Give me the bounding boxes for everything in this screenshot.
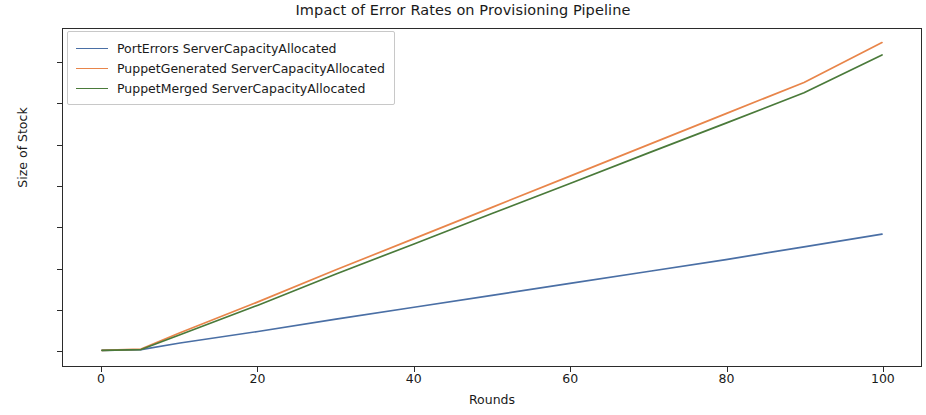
x-tick-label: 40	[384, 373, 444, 386]
legend-color-swatch	[76, 68, 108, 69]
chart-legend: PortErrors ServerCapacityAllocatedPuppet…	[67, 31, 395, 105]
chart-figure: Impact of Error Rates on Provisioning Pi…	[0, 0, 926, 415]
legend-item-label: PortErrors ServerCapacityAllocated	[117, 41, 337, 56]
x-tick-label: 100	[853, 373, 913, 386]
legend-color-swatch	[76, 88, 108, 89]
x-axis-label: Rounds	[62, 392, 922, 407]
legend-item-label: PuppetGenerated ServerCapacityAllocated	[117, 61, 385, 76]
x-tick-label: 80	[697, 373, 757, 386]
legend-item-label: PuppetMerged ServerCapacityAllocated	[117, 81, 365, 96]
legend-item[interactable]: PuppetGenerated ServerCapacityAllocated	[76, 58, 385, 78]
legend-item[interactable]: PortErrors ServerCapacityAllocated	[76, 38, 385, 58]
legend-item[interactable]: PuppetMerged ServerCapacityAllocated	[76, 78, 385, 98]
x-tick-label: 20	[227, 373, 287, 386]
x-tick-label: 60	[540, 373, 600, 386]
x-tick-label: 0	[71, 373, 131, 386]
legend-color-swatch	[76, 48, 108, 49]
